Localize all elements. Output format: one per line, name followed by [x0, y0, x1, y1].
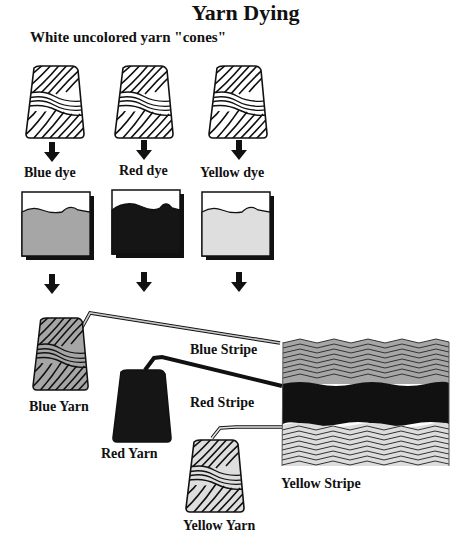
yellow-yarn-label: Yellow Yarn	[183, 518, 255, 534]
yellow-yarn-cone	[176, 436, 256, 516]
yellow-yarn-thread	[212, 427, 282, 438]
arrow-down-icon	[136, 272, 152, 292]
blue-yarn-thread	[80, 313, 280, 343]
yellow-stripe-label: Yellow Stripe	[281, 476, 361, 492]
arrow-down-icon	[136, 140, 152, 160]
blue-dye-vat	[22, 192, 94, 260]
yellow-dye-label: Yellow dye	[200, 165, 264, 181]
arrow-down-icon	[44, 274, 60, 294]
white-cone-3	[199, 62, 279, 142]
arrow-down-icon	[231, 272, 247, 292]
white-cone-2	[105, 62, 185, 142]
blue-dye-label: Blue dye	[24, 165, 76, 181]
yarn-dyeing-diagram	[0, 0, 461, 553]
blue-yarn-label: Blue Yarn	[29, 399, 89, 415]
red-stripe-label: Red Stripe	[190, 395, 254, 411]
red-dye-label: Red dye	[119, 163, 168, 179]
yellow-dye-vat	[202, 192, 274, 260]
blue-stripe-band	[283, 339, 449, 384]
white-cone-1	[16, 62, 96, 142]
red-stripe-band	[282, 382, 449, 426]
red-dye-vat	[112, 190, 184, 258]
striped-fabric	[282, 339, 449, 466]
blue-yarn-cone	[24, 314, 100, 394]
arrow-down-icon	[44, 142, 60, 162]
arrow-down-icon	[231, 140, 247, 160]
blue-stripe-label: Blue Stripe	[190, 342, 257, 358]
red-yarn-label: Red Yarn	[101, 446, 158, 462]
red-yarn-cone	[113, 370, 171, 442]
yellow-stripe-band	[282, 423, 449, 466]
